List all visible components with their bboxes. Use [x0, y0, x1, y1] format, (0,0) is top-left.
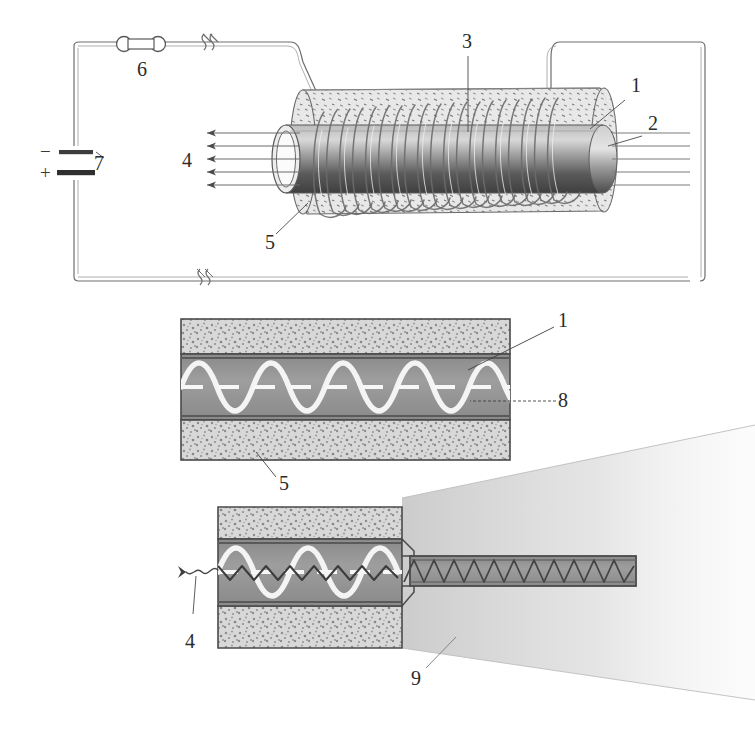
jacket-upper-tapered	[218, 507, 402, 539]
leader-5	[276, 203, 308, 234]
numeral-1-middle: 1	[558, 310, 568, 330]
numeral-2: 2	[648, 113, 658, 133]
battery-plus-label: +	[40, 163, 51, 182]
battery-minus-label: −	[40, 142, 51, 161]
top-perspective-panel	[57, 34, 705, 285]
switch-component[interactable]	[117, 37, 166, 52]
middle-section-panel	[181, 319, 556, 477]
numeral-4-bottom: 4	[185, 631, 195, 651]
bottom-section-panel	[178, 425, 755, 700]
escaping-wave-arrow	[178, 566, 218, 614]
numeral-1-top: 1	[631, 75, 641, 95]
patent-figure	[0, 0, 755, 730]
numeral-8: 8	[558, 390, 568, 410]
numeral-4-top: 4	[182, 150, 192, 170]
jacket-lower-tapered	[218, 606, 402, 648]
numeral-7: 7	[94, 153, 104, 173]
field-lines-right	[612, 133, 690, 185]
numeral-3: 3	[462, 31, 472, 51]
numeral-6: 6	[137, 59, 147, 79]
numeral-9: 9	[411, 668, 421, 688]
numeral-5-bottom: 5	[279, 473, 289, 493]
numeral-5-top: 5	[265, 232, 275, 252]
